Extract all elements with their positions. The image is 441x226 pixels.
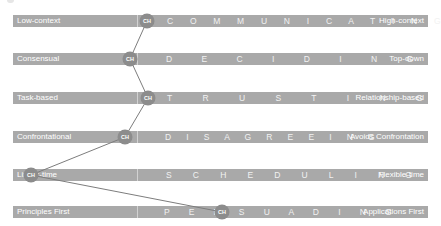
marker-deciding: CH (123, 52, 138, 67)
marker-trusting: CH (141, 91, 156, 106)
marker-scheduling: CH (24, 168, 39, 183)
marker-label: CH (218, 209, 226, 215)
marker-persuading: CH (215, 205, 230, 220)
marker-label: CH (121, 134, 129, 140)
marker-label: CH (126, 56, 134, 62)
marker-disagreeing: CH (118, 130, 133, 145)
marker-communicating: CH (140, 14, 155, 29)
marker-label: CH (27, 172, 35, 178)
profile-overlay: CH CH CH CH CH CH (0, 0, 441, 226)
marker-label: CH (143, 18, 151, 24)
profile-line (31, 21, 222, 212)
marker-label: CH (144, 95, 152, 101)
